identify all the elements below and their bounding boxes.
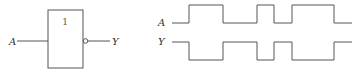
waveform-a-trace	[172, 5, 352, 23]
gate-symbol: 1	[62, 17, 68, 27]
waveform-a: A	[157, 5, 352, 28]
inversion-bubble-icon	[83, 39, 88, 44]
input-label: A	[8, 36, 16, 47]
waveform-y: Y	[158, 36, 352, 60]
not-gate: 1 A Y	[8, 10, 120, 68]
output-label: Y	[112, 36, 120, 47]
not-gate-diagram: 1 A Y A Y	[0, 0, 360, 75]
waveform-y-trace	[172, 42, 352, 60]
waveform-y-label: Y	[158, 36, 166, 47]
waveform-a-label: A	[157, 17, 165, 28]
